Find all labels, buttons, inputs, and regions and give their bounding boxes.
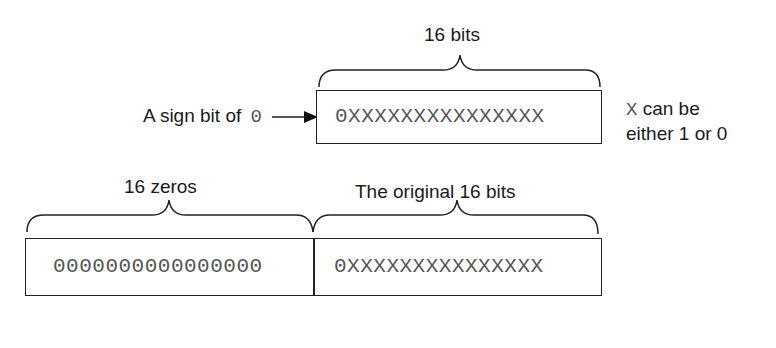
brace-original-16-bits: [313, 200, 598, 234]
sign-bit-label: A sign bit of 0: [143, 105, 262, 128]
register-divider: [313, 239, 315, 295]
x-note-line-2: either 1 or 0: [626, 122, 727, 146]
x-note: X can be either 1 or 0: [626, 97, 727, 146]
top-brace-label: 16 bits: [424, 24, 480, 46]
x-note-text-1: can be: [643, 98, 700, 119]
brace-16-zeros: [27, 200, 313, 232]
right-brace-label: The original 16 bits: [355, 181, 516, 203]
sign-bit-value: 0: [251, 106, 262, 128]
left-brace-label: 16 zeros: [124, 176, 197, 198]
zero-extension-bits: 0000000000000000: [53, 255, 263, 278]
bottom-register-box: 0000000000000000 0XXXXXXXXXXXXXXX: [25, 238, 602, 296]
x-note-line-1: X can be: [626, 97, 727, 122]
top-register-box: 0XXXXXXXXXXXXXXX: [316, 90, 602, 144]
top-register-bits: 0XXXXXXXXXXXXXXX: [335, 105, 545, 128]
original-bits: 0XXXXXXXXXXXXXXX: [334, 255, 544, 278]
sign-bit-text: A sign bit of: [143, 105, 241, 126]
brace-16-bits: [319, 55, 600, 87]
x-symbol: X: [626, 99, 637, 121]
